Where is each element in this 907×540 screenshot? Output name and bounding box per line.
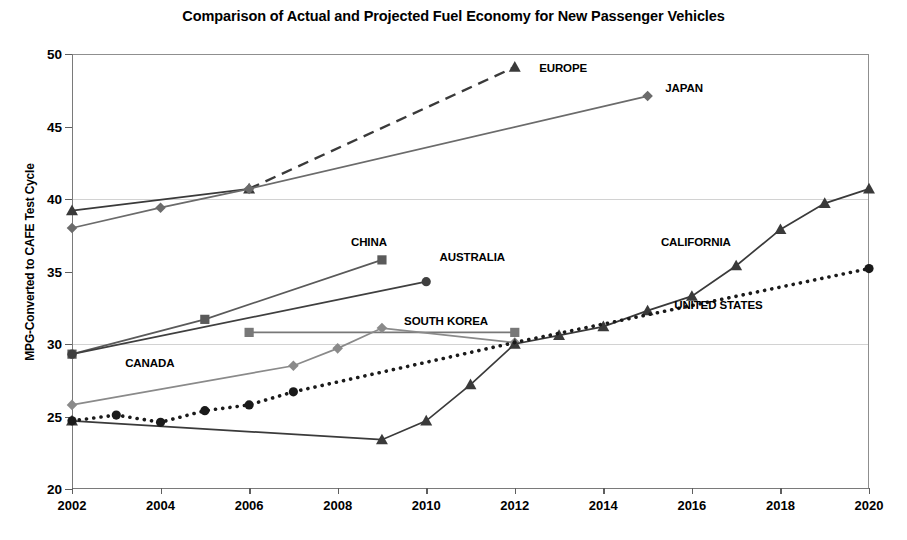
y-tick-50 <box>65 54 72 55</box>
x-tick-label-2016: 2016 <box>677 498 706 513</box>
data-point-marker <box>642 91 653 102</box>
data-point-marker <box>422 277 431 286</box>
data-point-marker <box>863 183 875 194</box>
series-label-united-states: UNITED STATES <box>674 299 762 311</box>
data-point-marker <box>510 328 519 337</box>
series-label-california: CALIFORNIA <box>661 236 731 248</box>
series-label-south-korea: SOUTH KOREA <box>404 315 488 327</box>
data-point-marker <box>67 350 76 359</box>
data-point-marker <box>112 410 121 419</box>
series-label-australia: AUSTRALIA <box>440 251 506 263</box>
series-label-japan: JAPAN <box>665 82 703 94</box>
data-point-marker <box>200 315 209 324</box>
y-tick-label-25: 25 <box>47 409 62 424</box>
data-point-marker <box>509 61 521 72</box>
y-tick-label-50: 50 <box>47 47 62 62</box>
data-point-marker <box>67 400 78 411</box>
data-point-marker <box>864 264 873 273</box>
y-tick-label-20: 20 <box>47 482 62 497</box>
y-tick-label-30: 30 <box>47 337 62 352</box>
plot-area: 2025303540455020022004200620082010201220… <box>72 54 869 489</box>
x-tick-label-2004: 2004 <box>146 498 175 513</box>
series-label-canada: CANADA <box>125 357 174 369</box>
y-tick-label-45: 45 <box>47 119 62 134</box>
data-point-marker <box>245 328 254 337</box>
x-tick-label-2008: 2008 <box>323 498 352 513</box>
chart-title: Comparison of Actual and Projected Fuel … <box>0 8 907 24</box>
data-point-marker <box>377 255 386 264</box>
x-tick-label-2010: 2010 <box>412 498 441 513</box>
y-tick-45 <box>65 127 72 128</box>
series-line-dashed-europe <box>249 67 515 189</box>
x-tick-label-2014: 2014 <box>589 498 618 513</box>
data-point-marker <box>289 387 298 396</box>
y-tick-40 <box>65 199 72 200</box>
series-layer <box>72 54 869 489</box>
data-point-marker <box>288 360 299 371</box>
series-line-australia <box>72 282 426 355</box>
series-label-europe: EUROPE <box>539 62 587 74</box>
data-point-marker <box>155 202 166 213</box>
chart-page: Comparison of Actual and Projected Fuel … <box>0 0 907 540</box>
x-tick-label-2002: 2002 <box>58 498 87 513</box>
y-tick-label-35: 35 <box>47 264 62 279</box>
data-point-marker <box>200 406 209 415</box>
x-tick-label-2012: 2012 <box>500 498 529 513</box>
data-point-marker <box>156 418 165 427</box>
x-tick-2020 <box>869 488 870 494</box>
x-tick-label-2020: 2020 <box>855 498 884 513</box>
y-axis-label: MPG-Converted to CAFE Test Cycle <box>23 82 37 442</box>
series-label-china: CHINA <box>351 236 387 248</box>
data-point-marker <box>332 343 343 354</box>
data-point-marker <box>774 223 786 234</box>
data-point-marker <box>245 400 254 409</box>
x-tick-label-2018: 2018 <box>766 498 795 513</box>
data-point-marker <box>67 223 78 234</box>
series-line-china <box>72 260 382 354</box>
y-tick-30 <box>65 344 72 345</box>
y-tick-20 <box>65 489 72 490</box>
x-tick-label-2006: 2006 <box>235 498 264 513</box>
y-tick-35 <box>65 272 72 273</box>
y-tick-label-40: 40 <box>47 192 62 207</box>
series-line-united-states <box>72 269 869 423</box>
data-point-marker <box>67 416 76 425</box>
